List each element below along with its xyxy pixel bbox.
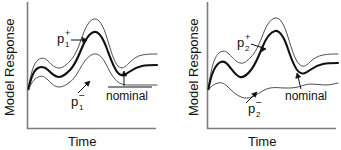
panel-right: p 2 + p 2 − nominal Model Respons: [186, 2, 338, 149]
label-p2-minus-superscript: −: [256, 97, 262, 108]
label-p1-minus-subscript: 1: [79, 103, 84, 112]
label-p2-plus-superscript: +: [245, 32, 250, 42]
curve-p1-plus: [29, 19, 158, 88]
label-p1-plus-superscript: +: [65, 28, 70, 38]
label-p1-minus-superscript: −: [79, 90, 85, 101]
x-axis-label-right: Time: [248, 134, 276, 149]
curve-p1-minus: [29, 54, 158, 90]
curve-p2-plus: [209, 18, 339, 88]
annotation-p1-minus-left: p 1 −: [71, 81, 90, 112]
label-p1-plus: p: [57, 31, 64, 46]
x-axis-label-left: Time: [68, 134, 96, 149]
two-panel-line-chart: p 1 + p 1 − nominal Mode: [0, 0, 341, 150]
label-p1-plus-subscript: 1: [65, 40, 70, 49]
label-nominal-left: nominal: [106, 89, 148, 103]
curve-nominal-right: [209, 31, 339, 89]
axis-lines-left: [28, 2, 157, 129]
annotation-p2-minus-right: p 2 −: [246, 92, 262, 119]
panel-left: p 1 + p 1 − nominal Mode: [2, 2, 157, 149]
y-axis-label-left: Model Response: [2, 18, 17, 116]
label-p2-plus-subscript: 2: [245, 44, 250, 53]
arrow-nominal-head-right: [296, 73, 301, 78]
label-p1-minus: p: [71, 94, 78, 109]
label-p2-minus: p: [248, 101, 255, 116]
label-p2-minus-subscript: 2: [256, 110, 261, 119]
y-axis-label-right: Model Response: [186, 18, 201, 116]
label-nominal-right: nominal: [285, 89, 327, 103]
annotation-p2-plus-right: p 2 +: [237, 32, 266, 53]
figure-container: p 1 + p 1 − nominal Mode: [0, 0, 341, 150]
label-p2-plus: p: [237, 35, 244, 50]
